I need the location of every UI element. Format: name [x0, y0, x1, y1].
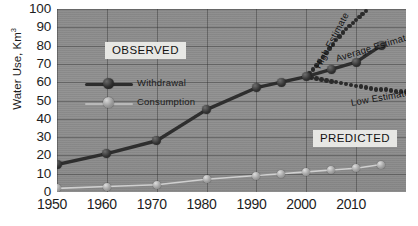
plot-area: High Estimate Average Estimate Low Estim… — [57, 9, 406, 192]
legend-marker-withdrawal — [103, 78, 114, 89]
x-tick-1950: 1950 — [37, 196, 67, 212]
point-withdrawal-2005 — [327, 65, 336, 74]
y-tick-100: 100 — [17, 2, 51, 16]
y-tick-40: 40 — [17, 112, 51, 126]
dot-low-estimate — [314, 76, 319, 81]
predicted-callout: PREDICTED — [313, 130, 397, 147]
y-tick-50: 50 — [17, 94, 51, 108]
y-tick-70: 70 — [17, 57, 51, 71]
dot-low-estimate — [319, 77, 324, 82]
point-consumption-1960 — [103, 183, 111, 191]
chart-figure: Water Use, Km3 1009080706050403020100 19… — [0, 0, 418, 226]
y-tick-80: 80 — [17, 39, 51, 53]
x-tick-2000: 2000 — [286, 196, 316, 212]
x-tick-1960: 1960 — [87, 196, 117, 212]
legend-marker-consumption — [103, 97, 114, 108]
x-tick-2010: 2010 — [336, 196, 366, 212]
point-consumption-1990 — [252, 172, 260, 180]
observed-callout: OBSERVED — [105, 42, 186, 59]
dot-low-estimate — [324, 78, 329, 83]
y-tick-30: 30 — [17, 130, 51, 144]
point-withdrawal-2000 — [302, 72, 311, 81]
x-tick-1990: 1990 — [236, 196, 266, 212]
point-consumption-2015 — [377, 161, 385, 169]
y-tick-90: 90 — [17, 20, 51, 34]
y-tick-60: 60 — [17, 75, 51, 89]
legend-label-consumption: Consumption — [137, 96, 195, 107]
y-tick-10: 10 — [17, 167, 51, 181]
point-consumption-1980 — [203, 175, 211, 183]
legend-label-withdrawal: Withdrawal — [137, 77, 186, 88]
dot-low-estimate — [329, 79, 334, 84]
point-withdrawal-1995 — [277, 78, 286, 87]
point-consumption-1970 — [153, 181, 161, 189]
y-tick-20: 20 — [17, 148, 51, 162]
x-tick-1980: 1980 — [187, 196, 217, 212]
x-tick-1970: 1970 — [137, 196, 167, 212]
